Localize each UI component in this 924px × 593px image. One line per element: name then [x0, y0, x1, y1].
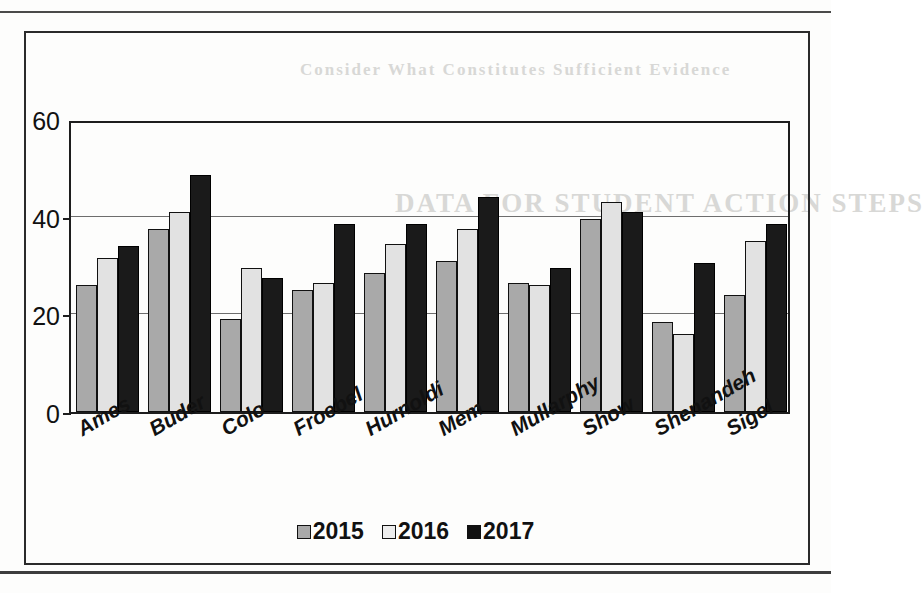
bar-group: [720, 123, 792, 412]
bar-show-2017[interactable]: [622, 212, 643, 412]
bar-shenandeh-2015[interactable]: [652, 322, 673, 412]
y-tick-label-60: 60: [32, 107, 60, 136]
bar-mullarphy-2015[interactable]: [508, 283, 529, 412]
y-tick-label-0: 0: [46, 400, 60, 429]
legend-label-2017: 2017: [483, 518, 534, 545]
legend-swatch-icon-2016: [382, 525, 396, 539]
bar-hurnoldi-2016[interactable]: [385, 244, 406, 412]
bar-group: [359, 123, 431, 412]
legend-swatch-icon-2015: [297, 525, 311, 539]
page-rule-bottom: [0, 571, 831, 574]
bar-ames-2016[interactable]: [97, 258, 118, 412]
plot-area: [69, 121, 790, 414]
bar-group: [504, 123, 576, 412]
bar-group: [648, 123, 720, 412]
bar-ames-2017[interactable]: [118, 246, 139, 412]
bar-group: [71, 123, 143, 412]
chart-legend: 201520162017: [0, 518, 831, 545]
y-tick-mark-40: [63, 218, 71, 220]
bar-group: [432, 123, 504, 412]
bar-sigel-2017[interactable]: [766, 224, 787, 412]
bar-ames-2015[interactable]: [76, 285, 97, 412]
bar-buder-2016[interactable]: [169, 212, 190, 412]
legend-item-2017[interactable]: 2017: [467, 518, 534, 545]
bar-show-2016[interactable]: [601, 202, 622, 412]
bar-hurnoldi-2015[interactable]: [364, 273, 385, 412]
bar-group: [143, 123, 215, 412]
legend-swatch-icon-2017: [467, 525, 481, 539]
bar-mem-2016[interactable]: [457, 229, 478, 412]
bar-froebel-2016[interactable]: [313, 283, 334, 412]
bar-colo-2016[interactable]: [241, 268, 262, 412]
y-tick-mark-0: [63, 413, 71, 415]
bar-colo-2017[interactable]: [262, 278, 283, 412]
bar-buder-2017[interactable]: [190, 175, 211, 412]
x-axis: AmesBuderColoFroebelHurnoldiMemMullarphy…: [69, 414, 790, 514]
legend-item-2015[interactable]: 2015: [297, 518, 364, 545]
legend-item-2016[interactable]: 2016: [382, 518, 449, 545]
page-rule-top: [0, 11, 831, 13]
bar-group: [215, 123, 287, 412]
bar-mem-2017[interactable]: [478, 197, 499, 412]
y-axis: 0204060: [16, 121, 60, 414]
legend-label-2015: 2015: [313, 518, 364, 545]
bar-froebel-2015[interactable]: [292, 290, 313, 412]
y-tick-label-40: 40: [32, 204, 60, 233]
bar-group: [576, 123, 648, 412]
y-tick-label-20: 20: [32, 302, 60, 331]
bar-colo-2015[interactable]: [220, 319, 241, 412]
bar-group: [287, 123, 359, 412]
y-tick-mark-20: [63, 315, 71, 317]
bar-mullarphy-2016[interactable]: [529, 285, 550, 412]
legend-label-2016: 2016: [398, 518, 449, 545]
bar-buder-2015[interactable]: [148, 229, 169, 412]
